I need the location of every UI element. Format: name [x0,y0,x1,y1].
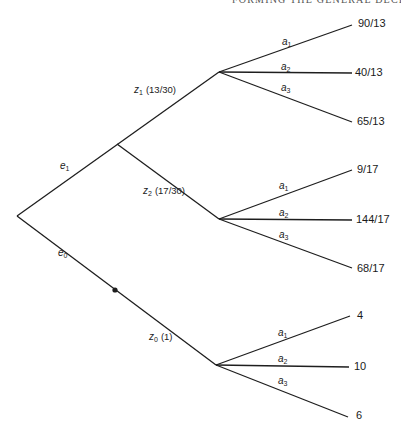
payoff-z0-a3: 6 [356,409,362,421]
label-z2-a1: a1 [279,180,288,192]
edge-z0-a3 [216,365,348,417]
payoff-z2-a2: 144/17 [356,213,390,225]
label-z0-a2: a2 [278,353,287,365]
payoff-z1-a3: 65/13 [357,115,385,127]
label-z0-a3: a3 [278,375,287,387]
edge-z1-a3 [219,72,352,122]
label-z2-a2: a2 [279,207,288,219]
label-z2-a3: a3 [279,229,288,241]
label-z0-a1: a1 [278,327,287,339]
edge-e1-z2 [117,144,219,219]
payoff-z0-a1: 4 [357,309,363,321]
payoff-z1-a2: 40/13 [355,66,383,78]
edge-z2-a2 [219,219,352,220]
edge-z2-a3 [219,219,352,268]
chance-node-marker [112,287,117,292]
decision-tree-diagram [0,0,401,436]
payoff-z2-a3: 68/17 [357,262,385,274]
payoff-z2-a1: 9/17 [357,163,378,175]
label-e0: e0 [58,247,67,259]
label-z2: z2(17/30) [143,185,185,197]
label-z1-a2: a2 [281,61,290,73]
label-z1-a1: a1 [282,36,291,48]
label-z1-a3: a3 [281,82,290,94]
label-z1: z1(13/30) [134,84,176,96]
payoff-z0-a2: 10 [354,360,366,372]
label-z0: z0(1) [149,331,173,343]
label-e1: e1 [60,160,69,172]
edge-z0-a2 [216,365,349,367]
payoff-z1-a1: 90/13 [358,17,386,29]
